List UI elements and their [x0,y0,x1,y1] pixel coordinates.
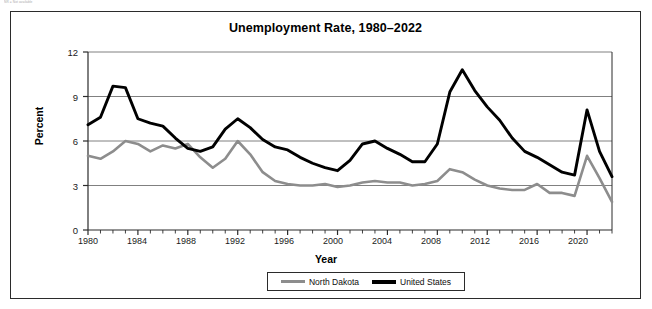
y-axis-ticks [83,52,88,230]
plot-area [0,0,652,309]
chart-page: NR = Not available Unemployment Rate, 19… [0,0,652,309]
series-line-united-states [88,70,612,177]
legend-swatch-north-dakota-icon [281,280,305,283]
legend: North Dakota United States [267,272,465,291]
x-axis-ticks [88,230,612,235]
legend-item-north-dakota: North Dakota [281,277,359,287]
legend-item-united-states: United States [372,277,451,287]
series-line-north-dakota [88,141,612,202]
legend-label-united-states: United States [400,277,451,287]
legend-label-north-dakota: North Dakota [309,277,359,287]
legend-swatch-united-states-icon [372,280,396,284]
gridlines [88,52,612,186]
